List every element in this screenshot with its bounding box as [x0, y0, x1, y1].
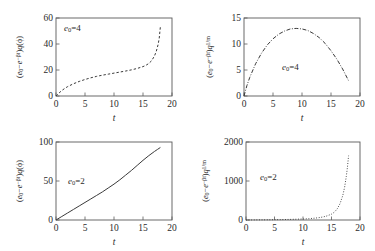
y-tick-label: 100 [39, 137, 54, 147]
panel-top-right: 0 5 10 15 20 0 5 10 15 t [188, 0, 375, 126]
y-tick-label: 15 [232, 13, 242, 23]
x-axis-label: t [301, 113, 304, 123]
x-axis-ticks [244, 93, 360, 97]
y-axis-tick-labels: 0 20 40 60 [44, 13, 54, 101]
x-axis-label: t [113, 237, 116, 247]
svg-text:(e0−e−βt)q1/m: (e0−e−βt)q1/m [201, 160, 211, 202]
x-tick-label: 10 [109, 223, 119, 233]
y-axis-label: (e0−e−βt)q1/m [205, 36, 215, 78]
x-axis-tick-labels: 0 5 10 15 20 [54, 99, 177, 109]
x-tick-label: 20 [355, 223, 365, 233]
panel-bottom-right: 0 5 10 15 20 0 1000 2000 t (e0−e−βt)q1/m [188, 126, 375, 251]
y-tick-label: 0 [238, 215, 243, 225]
y-tick-label: 2000 [224, 137, 243, 147]
x-tick-label: 10 [109, 99, 119, 109]
x-tick-label: 15 [138, 223, 148, 233]
y-tick-label: 20 [44, 65, 54, 75]
x-tick-label: 20 [167, 223, 177, 233]
annotation-e0: e0=4 [64, 23, 81, 33]
svg-text:(e0−e−βt)q(ϕ): (e0−e−βt)q(ϕ) [15, 160, 25, 202]
y-axis-tick-labels: 0 5 10 15 [232, 13, 242, 101]
x-axis-ticks [56, 217, 172, 221]
y-tick-label: 0 [48, 91, 53, 101]
y-tick-label: 1000 [224, 176, 243, 186]
x-tick-label: 15 [327, 223, 337, 233]
x-axis-tick-labels: 0 5 10 15 20 [242, 99, 365, 109]
x-tick-label: 0 [244, 223, 249, 233]
y-axis-tick-labels: 0 50 100 [39, 137, 54, 225]
panel-top-left: 0 5 10 15 20 0 20 40 60 t [0, 0, 188, 126]
x-tick-label: 0 [54, 223, 59, 233]
y-axis-tick-labels: 0 1000 2000 [224, 137, 243, 225]
y-axis-ticks [246, 142, 250, 220]
x-tick-label: 15 [326, 99, 336, 109]
y-axis-label: (e0−e−βt)q(ϕ) [15, 160, 25, 202]
y-tick-label: 5 [236, 65, 241, 75]
annotation-e0: e0=2 [68, 176, 85, 186]
x-axis-ticks [246, 217, 360, 221]
x-tick-label: 20 [167, 99, 177, 109]
x-tick-label: 5 [83, 99, 88, 109]
y-axis-label: (e0−e−βt)q1/m [201, 160, 211, 202]
x-axis-tick-labels: 0 5 10 15 20 [244, 223, 365, 233]
figure-multipanel-plot: 0 5 10 15 20 0 20 40 60 t [0, 0, 375, 251]
data-curve [246, 156, 349, 220]
svg-text:(e0−e−βt)q1/m: (e0−e−βt)q1/m [205, 36, 215, 78]
y-tick-label: 60 [44, 13, 54, 23]
x-axis-tick-labels: 0 5 10 15 20 [54, 223, 177, 233]
panel-bottom-left: 0 5 10 15 20 0 50 100 t (e0−e−βt)q(ϕ) [0, 126, 188, 251]
x-axis-label: t [113, 113, 116, 123]
x-axis-label: t [302, 237, 305, 247]
x-tick-label: 5 [271, 99, 276, 109]
x-tick-label: 10 [298, 223, 308, 233]
y-tick-label: 50 [44, 176, 54, 186]
y-tick-label: 0 [48, 215, 53, 225]
plot-frame [244, 18, 360, 96]
data-curve [56, 26, 160, 96]
y-tick-label: 0 [236, 91, 241, 101]
svg-text:(e0−e−βt)q(ϕ): (e0−e−βt)q(ϕ) [15, 36, 25, 78]
y-tick-label: 40 [44, 39, 54, 49]
y-axis-ticks [56, 142, 60, 220]
x-tick-label: 20 [355, 99, 365, 109]
x-tick-label: 0 [54, 99, 59, 109]
y-axis-label: (e0−e−βt)q(ϕ) [15, 36, 25, 78]
x-tick-label: 5 [272, 223, 277, 233]
x-axis-ticks [56, 93, 172, 97]
annotation-e0: e0=4 [282, 62, 299, 72]
x-tick-label: 15 [138, 99, 148, 109]
y-axis-ticks [56, 18, 60, 96]
x-tick-label: 10 [297, 99, 307, 109]
y-tick-label: 10 [232, 39, 242, 49]
x-tick-label: 0 [242, 99, 247, 109]
x-tick-label: 5 [83, 223, 88, 233]
annotation-e0: e0=2 [260, 172, 277, 182]
